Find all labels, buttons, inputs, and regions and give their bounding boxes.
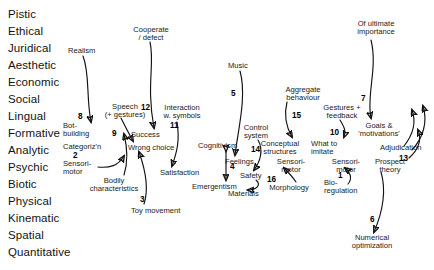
link-number-4: 4 xyxy=(230,163,235,171)
node-sensorimotor-16: Sensori- motor xyxy=(274,158,308,175)
aspect-pistic: Pistic xyxy=(8,8,36,20)
node-aggregate-behaviour: Aggregate behaviour xyxy=(279,86,327,103)
node-bio-regulation: Bio- regulation xyxy=(324,179,368,196)
link-number-3: 3 xyxy=(140,196,145,204)
aspect-economic: Economic xyxy=(8,76,59,88)
node-cooperate-defect: Cooperate / defect xyxy=(125,26,177,43)
aspect-analytic: Analytic xyxy=(8,144,49,156)
node-interaction-with-symbols: Interaction w. symbols xyxy=(158,104,206,121)
link-number-6: 6 xyxy=(370,216,375,224)
link-number-12: 12 xyxy=(141,104,150,112)
node-gestures-feedback: Gestures + feedback xyxy=(317,104,367,121)
aspect-biotic: Biotic xyxy=(8,178,37,190)
node-numerical-optimization: Numerical optimization xyxy=(344,234,400,251)
node-categorization: Categoriz'n xyxy=(63,143,111,151)
link-number-15: 15 xyxy=(292,112,301,120)
link-number-8: 8 xyxy=(78,113,83,121)
node-what-to-imitate: What to imitate xyxy=(311,140,349,157)
link-number-1: 1 xyxy=(338,172,343,180)
aspect-physical: Physical xyxy=(8,195,52,207)
aspect-aesthetic: Aesthetic xyxy=(8,59,56,71)
link-number-13: 13 xyxy=(399,155,408,163)
node-success: Success xyxy=(131,131,169,139)
link-number-7: 7 xyxy=(361,95,366,103)
node-satisfaction: Satisfaction xyxy=(160,169,210,177)
node-conceptual-structures: Conceptual structures xyxy=(255,140,305,157)
arrow-6 xyxy=(374,172,384,232)
node-sensorimotor-2: Sensori- motor xyxy=(63,160,97,177)
node-goals-motivations: Goals & 'motivations' xyxy=(353,122,405,139)
link-number-11: 11 xyxy=(170,122,179,130)
node-realism: Realism xyxy=(68,47,108,55)
node-sensorimotor-1: Sensori- motor xyxy=(329,158,363,175)
link-number-14: 14 xyxy=(251,146,260,154)
aspect-juridical: Juridical xyxy=(8,42,51,54)
node-bodily-characteristics: Bodily characteristics xyxy=(83,177,145,194)
aspect-lingual: Lingual xyxy=(8,110,46,122)
node-of-ultimate-importance: Of ultimate importance xyxy=(349,20,403,37)
aspect-psychic: Psychic xyxy=(8,161,48,173)
aspect-kinematic: Kinematic xyxy=(8,212,59,224)
node-adjudication: Adjudication xyxy=(380,144,432,152)
aspect-ethical: Ethical xyxy=(8,25,43,37)
node-cognitivism: Cognitivism xyxy=(198,142,248,150)
node-morphology: Morphology xyxy=(264,184,314,192)
aspect-quantitative: Quantitative xyxy=(8,246,71,258)
node-bot-building: Bot- building xyxy=(63,122,95,139)
node-wrong-choice: Wrong choice xyxy=(128,144,186,152)
arrow-2 xyxy=(98,156,124,167)
node-safety: Safety xyxy=(240,172,268,180)
arrow-bodily-up xyxy=(124,134,127,175)
link-number-16: 16 xyxy=(267,176,276,184)
link-number-9: 9 xyxy=(112,130,117,138)
aspect-spatial: Spatial xyxy=(8,229,44,241)
arrow-7 xyxy=(370,40,374,118)
node-materials: Materials xyxy=(228,190,268,198)
arrow-8 xyxy=(83,56,91,122)
diagram-canvas: Pistic Ethical Juridical Aesthetic Econo… xyxy=(0,0,434,270)
node-toy-movement: Toy movement xyxy=(131,207,195,215)
link-number-2: 2 xyxy=(73,152,78,160)
link-number-5: 5 xyxy=(231,90,236,98)
arrow-10 xyxy=(340,120,345,137)
link-number-10: 10 xyxy=(330,129,339,137)
node-music: Music xyxy=(228,62,258,70)
aspect-social: Social xyxy=(8,93,40,105)
aspect-formative: Formative xyxy=(8,127,60,139)
arrow-13b xyxy=(404,110,414,146)
